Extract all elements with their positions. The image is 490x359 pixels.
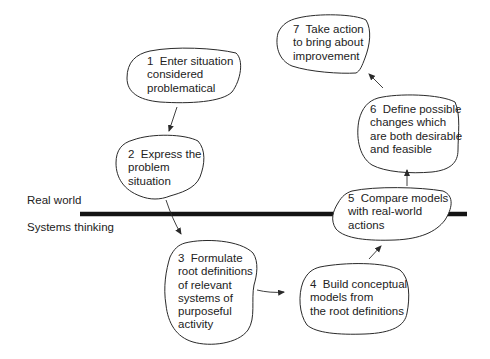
zone-label-systems-thinking: Systems thinking xyxy=(27,221,114,235)
arrow-1-to-2 xyxy=(169,107,177,131)
arrow-2-to-3 xyxy=(166,200,181,234)
zone-label-real-world: Real world xyxy=(27,194,81,208)
arrow-3-to-4 xyxy=(257,290,284,292)
stage-7-text: 7 Take action to bring about improvement xyxy=(293,23,364,63)
stage-4-text: 4 Build conceptual models from the root … xyxy=(310,278,407,318)
stage-2-text: 2 Express the problem situation xyxy=(128,148,202,188)
arrow-4-to-5 xyxy=(369,246,381,259)
stage-1-text: 1 Enter situation considered problematic… xyxy=(147,55,233,95)
arrow-6-to-7 xyxy=(369,74,383,88)
stage-6-text: 6 Define possible changes which are both… xyxy=(370,103,462,156)
stage-3-text: 3 Formulate root definitions of relevant… xyxy=(178,252,253,332)
stage-5-text: 5 Compare models with real-world actions xyxy=(348,192,448,232)
